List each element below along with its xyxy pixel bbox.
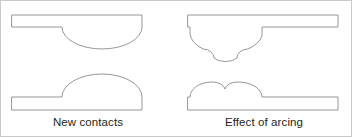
upper-contact-arced [188, 15, 338, 62]
caption-effect-of-arcing: Effect of arcing [176, 116, 352, 128]
figure-root: New contacts Effect of arcing [0, 0, 352, 137]
lower-contact-new [12, 74, 142, 110]
caption-new-contacts: New contacts [0, 116, 176, 128]
upper-contact-new [12, 15, 142, 49]
lower-contact-arced [188, 82, 338, 110]
